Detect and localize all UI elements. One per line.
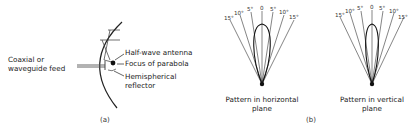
vertical-pattern-lines	[340, 10, 404, 84]
horizontal-pattern-title: Pattern in horizontal plane	[222, 96, 302, 113]
vertical-title-line2: plane	[332, 105, 412, 114]
h-tick-5-left: 5°	[247, 6, 253, 12]
figure-a-caption: (a)	[100, 116, 110, 124]
hemispherical-reflector-label: Hemispherical reflector	[125, 73, 176, 90]
v-tick-5-left: 5°	[357, 5, 363, 11]
horizontal-title-line2: plane	[222, 105, 302, 114]
leader-lines	[114, 54, 124, 76]
focus-dot	[111, 61, 116, 66]
figure-b-caption: (b)	[306, 116, 316, 124]
v-tick-15-left: 15°	[335, 12, 345, 18]
h-tick-15-right: 15°	[289, 14, 299, 20]
h-tick-5-right: 5°	[270, 6, 276, 12]
v-tick-5-right: 5°	[379, 5, 385, 11]
horizontal-pattern-lines	[230, 11, 294, 84]
focus-of-parabola-label: Focus of parabola	[125, 60, 189, 69]
v-tick-0: 0	[370, 4, 374, 10]
h-tick-10-left: 10°	[234, 10, 244, 16]
h-tick-10-right: 10°	[279, 9, 289, 15]
feed-line	[77, 61, 105, 70]
vertical-pattern-title: Pattern in vertical plane	[332, 96, 412, 113]
h-tick-0: 0	[260, 5, 264, 11]
v-tick-15-right: 15°	[398, 14, 408, 20]
v-tick-10-left: 10°	[345, 8, 355, 14]
feed-label: Coaxial or waveguide feed	[8, 56, 65, 73]
half-wave-antenna-label: Half-wave antenna	[125, 49, 193, 58]
feed-label-line2: waveguide feed	[8, 65, 65, 74]
h-tick-15-left: 15°	[224, 15, 234, 21]
reflector-label-line2: reflector	[125, 82, 176, 91]
